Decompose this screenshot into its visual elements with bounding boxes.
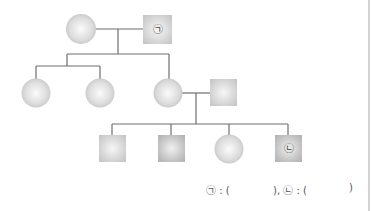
label-giyeok: ㉠	[153, 24, 163, 35]
pedigree-chart: ㉠ ㉡	[0, 0, 371, 211]
female-circle-g1	[66, 14, 96, 44]
answer-line: ㉠ : ( ), ㉡ : ( )	[0, 182, 371, 198]
answer-label-giyeok: ㉠ : (	[206, 182, 230, 197]
male-square-g3-1	[99, 135, 126, 162]
female-circle-g2-3	[154, 79, 183, 108]
male-square-g3-2	[158, 135, 185, 162]
female-circle-g3-1	[215, 135, 244, 164]
male-square-g2-spouse	[210, 79, 237, 106]
label-nieun: ㉡	[284, 143, 294, 154]
female-circle-g2-2	[86, 79, 115, 108]
female-circle-g2-1	[22, 79, 51, 108]
answer-label-nieun: ), ㉡ : (	[273, 182, 307, 197]
answer-close-paren: )	[349, 182, 353, 193]
